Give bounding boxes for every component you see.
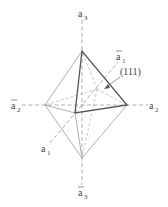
- svg-text:a: a: [149, 100, 154, 111]
- visible-edges: [45, 51, 127, 158]
- label-a1-front: a 1: [41, 143, 51, 157]
- label-a3-top: a 3: [78, 8, 88, 22]
- label-a3-bottom: a 3: [78, 187, 88, 201]
- svg-text:a: a: [78, 187, 83, 198]
- axis-a1: [50, 62, 118, 143]
- label-a2-right: a 2: [149, 100, 159, 114]
- svg-text:1: 1: [122, 57, 126, 65]
- hidden-edges: [45, 51, 127, 158]
- svg-text:a: a: [116, 51, 121, 62]
- svg-text:3: 3: [84, 193, 88, 201]
- octahedron-diagram: a 3 a 3 a 2 a 2 a 1 a 1 (111): [0, 0, 168, 207]
- label-a2-left: a 2: [11, 100, 21, 114]
- face-label-111: (111): [120, 66, 141, 78]
- svg-text:2: 2: [17, 106, 21, 114]
- svg-text:a: a: [11, 100, 16, 111]
- svg-text:2: 2: [155, 106, 159, 114]
- svg-text:3: 3: [84, 14, 88, 22]
- svg-text:1: 1: [47, 149, 51, 157]
- face-pointer-line: [108, 77, 120, 86]
- svg-text:a: a: [78, 8, 83, 19]
- svg-text:a: a: [41, 143, 46, 154]
